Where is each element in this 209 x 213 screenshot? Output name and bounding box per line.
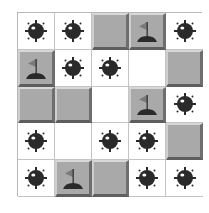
mine-icon xyxy=(23,165,49,191)
flag-icon xyxy=(134,91,160,117)
flag-icon xyxy=(60,165,86,191)
cell-r3-c2-mine xyxy=(92,123,129,160)
cell-r3-c4-tile[interactable] xyxy=(166,123,203,160)
cell-r1-c3-empty xyxy=(129,50,166,87)
cell-r1-c4-tile[interactable] xyxy=(166,50,203,87)
cell-r4-c3-mine xyxy=(129,160,166,197)
flag-icon xyxy=(23,55,49,81)
mine-icon xyxy=(60,55,86,81)
cell-r3-c0-mine xyxy=(18,123,55,160)
cell-r3-c3-mine xyxy=(129,123,166,160)
cell-r0-c3-flag[interactable] xyxy=(129,13,166,50)
cell-r0-c4-mine xyxy=(166,13,203,50)
cell-r4-c1-flag[interactable] xyxy=(55,160,92,197)
flag-icon xyxy=(134,18,160,44)
cell-r1-c2-mine xyxy=(92,50,129,87)
mine-icon xyxy=(23,128,49,154)
mine-icon xyxy=(23,18,49,44)
cell-r2-c4-mine xyxy=(166,87,203,124)
mine-icon xyxy=(172,165,198,191)
mine-icon xyxy=(134,128,160,154)
cell-r2-c0-tile[interactable] xyxy=(18,87,55,124)
mine-icon xyxy=(172,18,198,44)
cell-r3-c1-empty xyxy=(55,123,92,160)
cell-r4-c2-tile[interactable] xyxy=(92,160,129,197)
cell-r0-c1-mine xyxy=(55,13,92,50)
cell-r2-c3-flag[interactable] xyxy=(129,87,166,124)
cell-r0-c2-tile[interactable] xyxy=(92,13,129,50)
cell-r2-c2-empty xyxy=(92,87,129,124)
mine-icon xyxy=(60,18,86,44)
cell-r4-c4-mine xyxy=(166,160,203,197)
cell-r4-c0-mine xyxy=(18,160,55,197)
mine-icon xyxy=(97,128,123,154)
cell-r0-c0-mine xyxy=(18,13,55,50)
mine-icon xyxy=(97,55,123,81)
mine-icon xyxy=(134,165,160,191)
minesweeper-board xyxy=(17,12,202,196)
cell-r1-c1-mine xyxy=(55,50,92,87)
mine-icon xyxy=(172,91,198,117)
cell-r2-c1-tile[interactable] xyxy=(55,87,92,124)
cell-r1-c0-flag[interactable] xyxy=(18,50,55,87)
